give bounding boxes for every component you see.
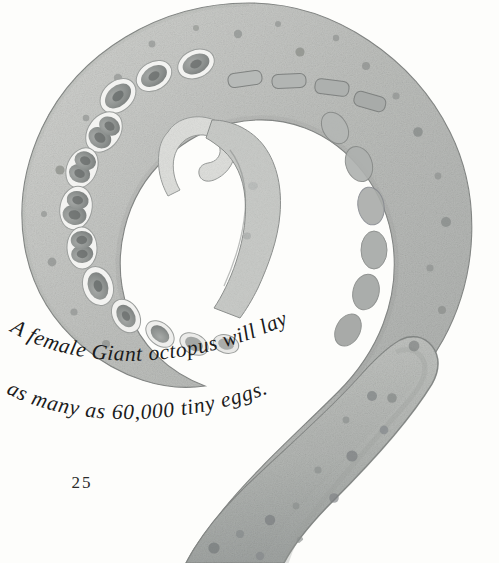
page-number: 25	[60, 473, 104, 493]
book-page: A female Giant octopus will lay as many …	[0, 0, 499, 563]
